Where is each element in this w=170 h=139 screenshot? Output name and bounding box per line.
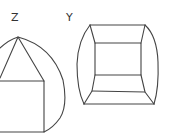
figure-y-top-diagonals [90, 25, 145, 43]
figure-y-middle-line [92, 91, 145, 92]
figure-z-square [0, 81, 44, 132]
figure-z-triangle [0, 37, 44, 81]
figure-y-lower-diagonals [84, 75, 154, 104]
figure-y-label: Y [65, 11, 73, 24]
figure-y-right-arc [145, 25, 158, 104]
figure-y-left-arc [77, 25, 90, 104]
figure-y: Y [65, 11, 158, 104]
figure-y-inner-rect [95, 43, 141, 75]
figure-z-label: Z [11, 11, 19, 24]
figure-z-outer-arc [0, 37, 65, 132]
figure-z: Z [0, 11, 65, 132]
diagram-canvas: Z Y [0, 0, 170, 139]
